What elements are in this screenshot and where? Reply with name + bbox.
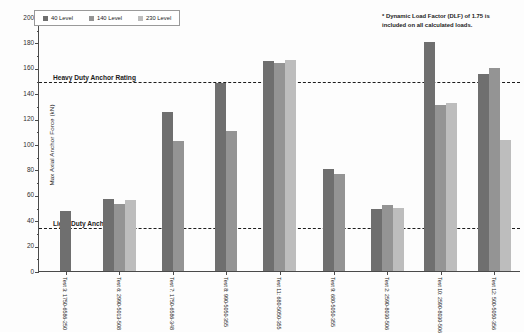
x-tick-label: Test 6: 2990-5013-508: [116, 277, 122, 330]
bar: [173, 141, 184, 271]
bar-group: [467, 18, 521, 271]
x-tick-label-line: 2990-5013-508: [116, 294, 122, 330]
bar-group: [146, 18, 200, 271]
dlf-note-line-1: * Dynamic Load Factor (DLF) of 1.75 is: [382, 12, 516, 21]
legend-swatch-icon: [43, 16, 48, 21]
bar: [215, 83, 226, 271]
tick-mark: [35, 272, 39, 273]
x-tick-label: Test 11: 680-5050-355: [276, 277, 282, 330]
bar: [226, 131, 237, 271]
y-tick-label: 120: [23, 115, 34, 122]
x-tick-label-line: Test 10:: [437, 277, 443, 297]
x-tick-label: Test 12: 500-5050-356: [491, 277, 497, 330]
bar: [323, 169, 334, 271]
y-tick-label: 140: [23, 90, 34, 97]
y-tick-label: 0: [30, 268, 34, 275]
legend-item[interactable]: 230 Level: [138, 15, 171, 21]
x-tick-label-line: Test 11:: [276, 277, 282, 297]
bar: [125, 200, 136, 271]
bar: [371, 209, 382, 271]
bar-series-layer: [39, 18, 520, 271]
x-tick-label-line: Test 12:: [491, 277, 497, 297]
x-tick-label: Test 2: 2590-8030-506: [384, 277, 390, 330]
bar: [424, 42, 435, 271]
bar: [489, 68, 500, 271]
x-tick-label-line: Test 9:: [330, 277, 336, 294]
dlf-note: * Dynamic Load Factor (DLF) of 1.75 is i…: [382, 12, 516, 29]
bar-group: [93, 18, 147, 271]
x-tick-mark: [119, 271, 120, 275]
legend-item[interactable]: 40 Level: [43, 15, 73, 21]
legend-label: 140 Level: [97, 15, 122, 21]
bar: [382, 205, 393, 271]
x-tick-label-line: 680-5050-355: [276, 297, 282, 330]
x-tick-mark: [66, 271, 67, 275]
bar: [478, 74, 489, 271]
bar-group: [360, 18, 414, 271]
legend-swatch-icon: [89, 16, 94, 21]
bar-group: [200, 18, 254, 271]
bar: [60, 211, 71, 271]
y-tick-label: 160: [23, 64, 34, 71]
x-tick-label: Test 3: 1750-6586-250: [62, 277, 68, 330]
bar-group: [414, 18, 468, 271]
y-tick-label: 40: [27, 217, 34, 224]
x-tick-label-line: Test 6:: [116, 277, 122, 294]
x-tick-label: Test 7: 1750-6586-348: [169, 277, 175, 330]
y-tick-label: 20: [27, 242, 34, 249]
legend-label: 40 Level: [51, 15, 73, 21]
x-tick-label-line: 1750-6586-250: [62, 294, 68, 330]
x-tick-label-line: 1750-6586-348: [169, 294, 175, 330]
legend-swatch-icon: [138, 16, 143, 21]
x-tick-label-line: Test 3:: [62, 277, 68, 294]
bar: [393, 208, 404, 272]
bar: [435, 105, 446, 271]
y-tick-label: 80: [27, 166, 34, 173]
x-tick-label-line: 2590-8030-506: [384, 294, 390, 330]
x-tick-mark: [280, 271, 281, 275]
x-tick-label-line: 990-5050-355: [223, 294, 229, 327]
x-tick-mark: [387, 271, 388, 275]
x-tick-label-line: Test 8:: [223, 277, 229, 294]
plot-area: Max Axial Anchor Force (kN) 020406080100…: [38, 18, 520, 272]
legend-label: 230 Level: [146, 15, 171, 21]
bar: [500, 140, 511, 271]
bar: [162, 112, 173, 271]
x-tick-mark: [173, 271, 174, 275]
bar-group: [307, 18, 361, 271]
x-tick-mark: [441, 271, 442, 275]
bar: [274, 63, 285, 271]
y-tick-label: 60: [27, 191, 34, 198]
bar-group: [253, 18, 307, 271]
x-tick-label-line: 500-5050-356: [491, 297, 497, 330]
bar: [103, 199, 114, 271]
bar: [114, 204, 125, 271]
chart-legend: 40 Level140 Level230 Level: [34, 10, 180, 26]
x-tick-mark: [334, 271, 335, 275]
x-tick-label: Test 9: 680-5050-355: [330, 277, 336, 327]
dlf-note-line-2: included on all calculated loads.: [382, 21, 516, 30]
legend-item[interactable]: 140 Level: [89, 15, 122, 21]
x-tick-label-line: Test 7:: [169, 277, 175, 294]
x-tick-mark: [494, 271, 495, 275]
y-tick-label: 100: [23, 141, 34, 148]
y-tick-label: 200: [23, 14, 34, 21]
x-tick-label: Test 8: 990-5050-355: [223, 277, 229, 327]
x-tick-label: Test 10: 2590-8030-506: [437, 277, 443, 333]
x-tick-label-line: 680-5050-355: [330, 294, 336, 327]
x-tick-label-line: 2590-8030-506: [437, 297, 443, 333]
bar: [285, 60, 296, 271]
x-tick-label-line: Test 2:: [384, 277, 390, 294]
bar: [263, 61, 274, 271]
y-tick-label: 180: [23, 39, 34, 46]
bar: [334, 174, 345, 271]
x-tick-mark: [226, 271, 227, 275]
bar-group: [39, 18, 93, 271]
bar: [446, 103, 457, 271]
